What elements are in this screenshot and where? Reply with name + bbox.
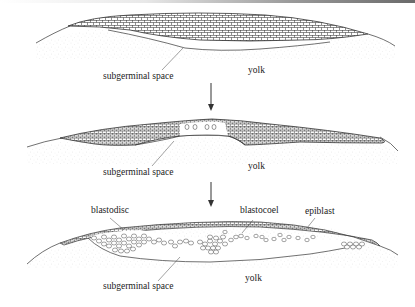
- label-blastocoel: blastocoel: [240, 206, 279, 216]
- label-subgerminal-space-3: subgerminal space: [103, 282, 173, 292]
- label-yolk-1: yolk: [248, 66, 265, 76]
- arrow-down-icon: [208, 182, 214, 207]
- stage-3: [27, 218, 398, 281]
- label-blastodisc: blastodisc: [91, 206, 129, 216]
- arrow-down-icon: [208, 83, 214, 111]
- label-subgerminal-space-2: subgerminal space: [103, 168, 173, 178]
- label-yolk-2: yolk: [248, 162, 265, 172]
- blastoderm-diagram: [0, 0, 415, 307]
- label-subgerminal-space-1: subgerminal space: [103, 72, 173, 82]
- label-epiblast: epiblast: [305, 207, 335, 217]
- stage-1: [36, 13, 395, 70]
- label-yolk-3: yolk: [245, 274, 262, 284]
- stage-2: [27, 119, 398, 166]
